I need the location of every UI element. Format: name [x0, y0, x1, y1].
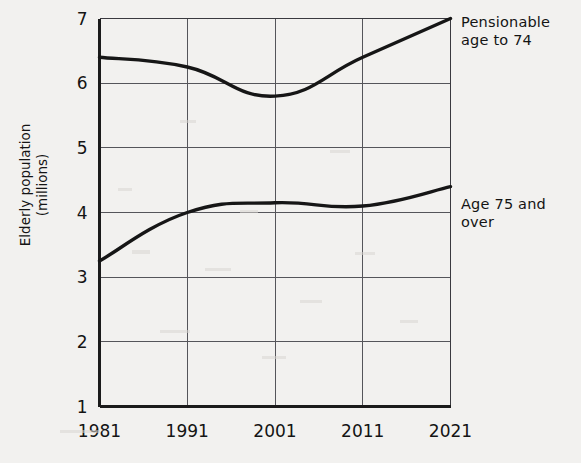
y-tick-label: 1 [77, 397, 88, 417]
series-label-line-2: age to 74 [461, 32, 532, 48]
y-tick-labels: 7654321 [77, 9, 88, 417]
y-tick-label: 4 [77, 203, 88, 223]
series-label-line-1: Pensionable [461, 14, 550, 30]
y-tick-label: 2 [77, 332, 88, 352]
series-label-line-1: Age 75 and [461, 196, 546, 212]
x-tick-label: 2001 [253, 421, 296, 441]
line-chart-canvas: 7654321 19811991200120112021 [0, 0, 581, 463]
x-tick-label: 2021 [429, 421, 472, 441]
series-label-age-75-and-over: Age 75 andover [461, 196, 546, 231]
y-axis-title-line-2: (millions) [34, 154, 50, 217]
y-tick-label: 7 [77, 9, 88, 29]
y-axis-title: Elderly population(millions) [17, 105, 51, 265]
series-label-line-2: over [461, 214, 494, 230]
y-tick-label: 5 [77, 138, 88, 158]
gridlines-group [100, 19, 451, 407]
x-tick-label: 2011 [341, 421, 384, 441]
series-label-pensionable-age-to-74: Pensionableage to 74 [461, 14, 550, 49]
x-tick-label: 1991 [166, 421, 209, 441]
chart-container: 7654321 19811991200120112021 Pensionable… [0, 0, 581, 463]
x-tick-labels: 19811991200120112021 [78, 421, 472, 441]
x-tick-label: 1981 [78, 421, 121, 441]
y-axis-title-line-1: Elderly population [17, 124, 33, 247]
y-tick-label: 3 [77, 267, 88, 287]
y-tick-label: 6 [77, 73, 88, 93]
